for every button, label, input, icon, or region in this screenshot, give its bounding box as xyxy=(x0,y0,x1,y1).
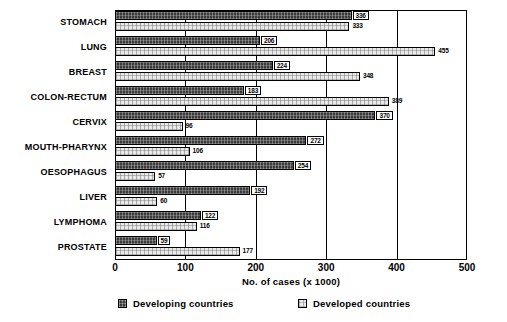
bar-row: 336333 xyxy=(115,10,467,35)
bar-value-label: 224 xyxy=(274,61,290,70)
bar-value-label: 96 xyxy=(184,122,195,131)
bar-developed xyxy=(115,97,389,106)
bar-developing xyxy=(115,61,273,70)
legend-item-developing: Developing countries xyxy=(118,298,234,309)
bar-developed xyxy=(115,172,155,181)
bar-value-label: 348 xyxy=(361,72,375,81)
bar-developing xyxy=(115,211,201,220)
category-label: PROSTATE xyxy=(0,235,107,260)
bar-value-label: 370 xyxy=(376,111,392,120)
bar-value-label: 336 xyxy=(353,11,369,20)
bar-row: 19260 xyxy=(115,185,467,210)
x-tick-label: 100 xyxy=(177,262,194,273)
bar-developing xyxy=(115,11,352,20)
bar-developing xyxy=(115,186,250,195)
bar-row: 206455 xyxy=(115,35,467,60)
plot-area-wrapper: 3363332064552243481833893709627210625457… xyxy=(115,10,467,260)
legend-item-developed: Developed countries xyxy=(298,298,410,309)
x-tick-label: 400 xyxy=(388,262,405,273)
bar-developed xyxy=(115,222,197,231)
bar-row: 224348 xyxy=(115,60,467,85)
bar-row: 122116 xyxy=(115,210,467,235)
x-tick-label: 0 xyxy=(112,262,118,273)
bar-value-label: 192 xyxy=(251,186,267,195)
bar-developed xyxy=(115,72,360,81)
category-label: OESOPHAGUS xyxy=(0,160,107,185)
category-label: MOUTH-PHARYNX xyxy=(0,135,107,160)
bar-value-label: 254 xyxy=(295,161,311,170)
dark-hatched-swatch-icon xyxy=(118,299,127,308)
category-label: LYMPHOMA xyxy=(0,210,107,235)
x-tick-label: 200 xyxy=(247,262,264,273)
bar-value-label: 122 xyxy=(202,211,218,220)
bar-row: 59177 xyxy=(115,235,467,260)
bar-value-label: 183 xyxy=(245,86,261,95)
category-label: LUNG xyxy=(0,35,107,60)
legend-label-developing: Developing countries xyxy=(133,298,234,309)
bar-developing xyxy=(115,236,157,245)
bar-developing xyxy=(115,161,294,170)
bar-row: 37096 xyxy=(115,110,467,135)
bar-value-label: 333 xyxy=(350,22,364,31)
bar-developing xyxy=(115,36,260,45)
legend-label-developed: Developed countries xyxy=(313,298,410,309)
category-label: COLON-RECTUM xyxy=(0,85,107,110)
bar-developed xyxy=(115,22,349,31)
category-label: STOMACH xyxy=(0,10,107,35)
bar-row: 183389 xyxy=(115,85,467,110)
category-label: BREAST xyxy=(0,60,107,85)
category-label: CERVIX xyxy=(0,110,107,135)
bar-developing xyxy=(115,86,244,95)
bar-value-label: 116 xyxy=(198,222,212,231)
bar-value-label: 59 xyxy=(158,236,171,245)
bar-value-label: 455 xyxy=(436,47,450,56)
bar-developing xyxy=(115,111,375,120)
category-label: LIVER xyxy=(0,185,107,210)
x-axis-label: No. of cases (x 1000) xyxy=(115,276,467,287)
x-tick-label: 500 xyxy=(459,262,476,273)
bar-value-label: 389 xyxy=(390,97,404,106)
bar-value-label: 57 xyxy=(156,172,167,181)
x-tick-label: 300 xyxy=(318,262,335,273)
bar-developed xyxy=(115,122,183,131)
bar-value-label: 60 xyxy=(158,197,169,206)
light-hatched-swatch-icon xyxy=(298,299,307,308)
x-axis-ticks: 0100200300400500 xyxy=(115,262,467,276)
bar-developed xyxy=(115,247,240,256)
bar-value-label: 206 xyxy=(261,36,277,45)
bar-developed xyxy=(115,197,157,206)
bar-value-label: 177 xyxy=(241,247,255,256)
bar-value-label: 272 xyxy=(307,136,323,145)
bar-chart: STOMACHLUNGBREASTCOLON-RECTUMCERVIXMOUTH… xyxy=(0,0,507,322)
bar-developed xyxy=(115,147,190,156)
chart-legend: Developing countries Developed countries xyxy=(0,298,507,318)
bar-row: 272106 xyxy=(115,135,467,160)
bar-developing xyxy=(115,136,306,145)
bar-row: 25457 xyxy=(115,160,467,185)
bar-value-label: 106 xyxy=(191,147,205,156)
bar-developed xyxy=(115,47,435,56)
category-axis-labels: STOMACHLUNGBREASTCOLON-RECTUMCERVIXMOUTH… xyxy=(0,10,112,260)
